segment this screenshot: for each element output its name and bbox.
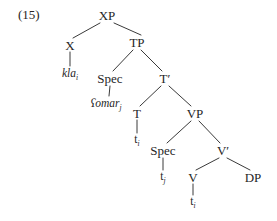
tree-edge-tp-to-spec_tp [113,50,133,71]
tree-edge-xp-to-tp [114,23,141,35]
tree-edge-xp-to-x [73,23,100,38]
tree-node-v: V [188,171,197,184]
tree-edge-tbar-to-t [140,86,161,106]
tree-node-label: T [133,106,141,121]
tree-node-label: kla [62,67,76,79]
tree-node-subscript: j [164,176,166,185]
tree-node-tbar: T′ [160,72,171,85]
tree-node-label: TP [129,35,144,50]
tree-edge-spec_tp-to-omar [109,86,110,96]
tree-node-trace_tj: tj [160,171,165,183]
tree-node-subscript: i [76,73,78,82]
tree-node-subscript: i [194,201,196,210]
tree-node-label: VP [187,106,204,121]
tree-node-spec_vp: Spec [150,144,175,157]
tree-node-trace_ti2: ti [190,196,195,208]
tree-node-label: V [188,170,197,185]
tree-node-vp: VP [187,107,204,120]
tree-edge-vp-to-spec_vp [167,121,191,143]
tree-node-kla: klai [62,68,78,80]
tree-edge-vp-to-vbar [199,121,220,143]
tree-node-subscript: i [138,139,140,148]
tree-node-label: Spec [150,143,175,158]
tree-node-label: V′ [217,143,229,158]
tree-node-trace_ti1: ti [134,134,139,146]
syntax-tree-figure: (15) XPXklaiTPSpecʕomarjT′TtiVPSpectjV′V… [0,0,277,221]
tree-edge-tp-to-tbar [141,50,162,71]
tree-node-tp: TP [129,36,144,49]
tree-node-t: T [133,107,141,120]
tree-node-omar: ʕomarj [90,98,121,110]
tree-node-label: T′ [160,71,171,86]
tree-node-dp: DP [245,171,262,184]
tree-node-label: DP [245,170,262,185]
tree-node-label: XP [99,8,116,23]
tree-edge-vbar-to-v [196,158,219,170]
tree-node-x: X [65,39,74,52]
tree-edge-vbar-to-dp [227,158,250,170]
tree-node-spec_tp: Spec [97,72,122,85]
tree-node-xp: XP [99,9,116,22]
tree-node-subscript: j [119,103,121,112]
tree-node-label: X [65,38,74,53]
example-number-label: (15) [18,8,40,21]
tree-node-label: ʕomar [90,97,119,109]
tree-node-vbar: V′ [217,144,229,157]
tree-edge-tbar-to-vp [169,86,191,106]
tree-node-label: Spec [97,71,122,86]
